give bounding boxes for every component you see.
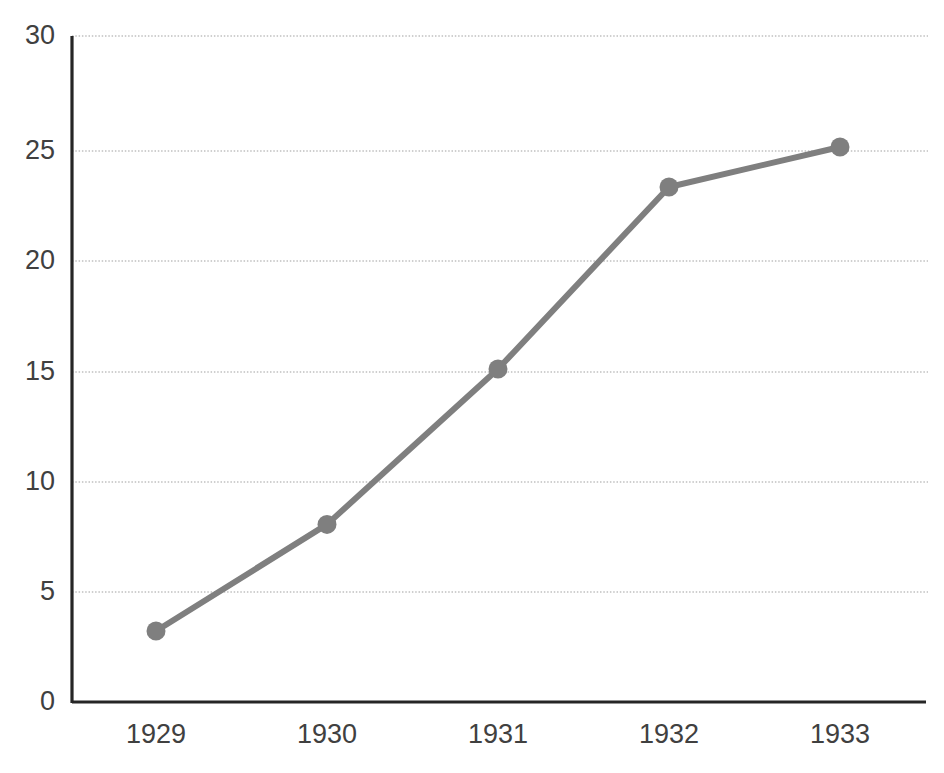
data-point-1931 xyxy=(489,360,508,379)
data-point-markers xyxy=(147,138,850,641)
data-point-1929 xyxy=(147,622,166,641)
gridlines xyxy=(72,36,928,592)
plot-area xyxy=(0,0,944,773)
line-chart: 30 25 20 15 10 5 0 1929 1930 1931 1932 1… xyxy=(0,0,944,773)
data-point-1933 xyxy=(831,138,850,157)
data-point-1930 xyxy=(318,515,337,534)
data-point-1932 xyxy=(660,178,679,197)
data-series-line xyxy=(156,147,840,631)
